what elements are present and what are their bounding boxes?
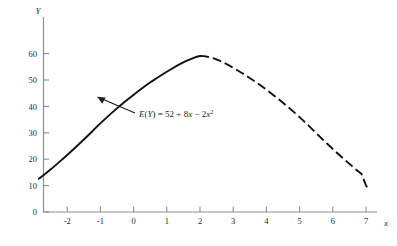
x-tick-label-4: 4 — [264, 216, 269, 226]
x-axis-ticks — [67, 207, 366, 213]
y-tick-label-60: 60 — [29, 49, 38, 59]
annotation-formula: E(Y) = 52 + 8x − 2x2 — [138, 109, 213, 120]
annotation-arrow — [98, 97, 136, 113]
curve-dashed-segment — [200, 56, 368, 188]
x-tick-label-6: 6 — [331, 216, 335, 226]
parabola-plot: 0 10 20 30 40 50 60 -2 -1 0 1 2 3 4 5 6 … — [0, 0, 397, 246]
annotation-part-minus: − 2 — [192, 109, 206, 119]
x-axis-label: x — [383, 218, 388, 228]
y-axis-label: Y — [35, 6, 41, 16]
chart-figure: 0 10 20 30 40 50 60 -2 -1 0 1 2 3 4 5 6 … — [0, 0, 397, 246]
y-tick-label-20: 20 — [29, 154, 38, 164]
x-tick-label-2: 2 — [198, 216, 202, 226]
x-tick-label-5: 5 — [297, 216, 301, 226]
y-tick-label-50: 50 — [29, 75, 38, 85]
x-tick-label-minus2: -2 — [64, 216, 71, 226]
x-tick-label-0: 0 — [131, 216, 135, 226]
y-tick-label-10: 10 — [29, 181, 38, 191]
x-tick-label-7: 7 — [364, 216, 368, 226]
y-tick-label-0: 0 — [33, 207, 37, 217]
annotation-part-exponent: 2 — [210, 109, 213, 115]
x-tick-label-minus1: -1 — [97, 216, 104, 226]
x-tick-label-1: 1 — [165, 216, 169, 226]
y-tick-label-40: 40 — [29, 102, 38, 112]
annotation-part-eq: = 52 + 8 — [156, 109, 189, 119]
y-tick-label-30: 30 — [29, 128, 38, 138]
x-tick-label-3: 3 — [231, 216, 235, 226]
y-axis-ticks — [44, 54, 50, 212]
